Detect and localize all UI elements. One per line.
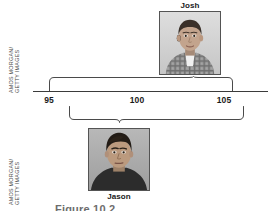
brace-josh	[48, 76, 234, 92]
figure-caption: Figure 10.2	[55, 203, 115, 211]
photo-josh	[159, 11, 221, 75]
photo-jason	[88, 128, 150, 191]
photo-credit-top: AMOS MORGAN/ GETTY IMAGES	[8, 13, 20, 93]
name-label-josh: Josh	[159, 1, 221, 10]
axis-tick-100: 100	[124, 95, 150, 105]
brace-jason-graphic	[68, 106, 246, 124]
brace-josh-graphic	[48, 76, 234, 92]
figure-caption-clip: Figure 10.2	[0, 203, 268, 211]
number-line-axis	[33, 91, 268, 92]
photo-josh-graphic	[160, 12, 220, 74]
photo-credit-bottom: AMOS MORGAN/ GETTY IMAGES	[8, 125, 20, 205]
axis-tick-105: 105	[211, 95, 237, 105]
figure-container: AMOS MORGAN/ GETTY IMAGES AMOS MORGAN/ G…	[0, 0, 268, 211]
photo-credit-bottom-line2: GETTY IMAGES	[14, 125, 20, 205]
photo-jason-graphic	[89, 129, 149, 190]
photo-credit-top-line2: GETTY IMAGES	[14, 13, 20, 93]
brace-jason	[68, 106, 246, 124]
name-label-jason: Jason	[88, 192, 150, 201]
axis-tick-95: 95	[37, 95, 61, 105]
